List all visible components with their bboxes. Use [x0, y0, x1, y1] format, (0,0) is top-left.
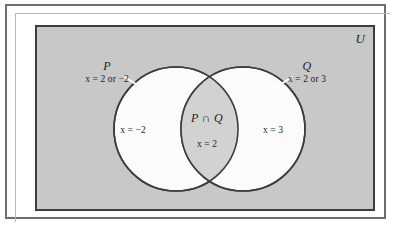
- region-q-only-label: x = 3: [235, 125, 311, 135]
- region-intersection-group: P ∩ Q x = 2: [169, 111, 245, 149]
- set-q-callout: Q x = 2 or 3: [255, 59, 359, 86]
- universal-set-panel: U: [35, 25, 375, 211]
- set-p-description: x = 2 or −2: [55, 74, 159, 86]
- set-p-name: P: [55, 59, 159, 74]
- set-q-name: Q: [255, 59, 359, 74]
- set-q-description: x = 2 or 3: [255, 74, 359, 86]
- figure-outer-border: U: [5, 4, 386, 219]
- venn-stage: P x = 2 or −2 Q x = 2 or 3 x = −2 P ∩ Q …: [37, 27, 377, 213]
- set-p-callout: P x = 2 or −2: [55, 59, 159, 86]
- region-intersection-title: P ∩ Q: [169, 111, 245, 126]
- region-intersection-value: x = 2: [169, 139, 245, 149]
- region-p-only-label: x = −2: [95, 125, 171, 135]
- venn-diagram-figure: U: [0, 0, 395, 227]
